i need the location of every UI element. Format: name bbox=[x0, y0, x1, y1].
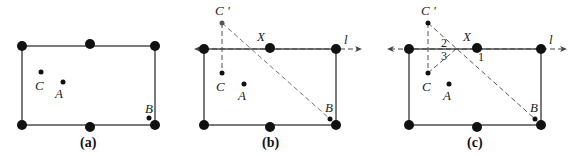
diagram-canvas: C A B (a) l C ' X C A B bbox=[0, 0, 587, 156]
point-c bbox=[426, 71, 431, 76]
point-c bbox=[220, 71, 225, 76]
label-c-prime: C ' bbox=[215, 3, 230, 18]
point-a bbox=[447, 82, 452, 87]
panel-b: l C ' X C A B (b) bbox=[194, 3, 362, 151]
label-c: C bbox=[422, 79, 431, 94]
point-c bbox=[39, 70, 44, 75]
point-c-prime bbox=[426, 21, 431, 26]
angle-2: 2 bbox=[441, 36, 447, 50]
path-cprime-b bbox=[222, 23, 330, 119]
caption-c: (c) bbox=[467, 135, 483, 151]
label-l: l bbox=[344, 32, 348, 47]
point-b bbox=[328, 117, 333, 122]
point-a bbox=[61, 80, 66, 85]
caption-a: (a) bbox=[80, 135, 97, 151]
label-x: X bbox=[462, 29, 472, 44]
angle-3: 3 bbox=[441, 49, 447, 63]
label-l: l bbox=[549, 32, 553, 47]
label-b: B bbox=[145, 101, 153, 116]
label-c: C bbox=[35, 78, 44, 93]
label-x: X bbox=[256, 29, 266, 44]
angle-1: 1 bbox=[478, 50, 484, 64]
point-c-prime bbox=[220, 21, 225, 26]
panel-a: C A B (a) bbox=[17, 39, 160, 151]
caption-b: (b) bbox=[262, 135, 279, 151]
point-b bbox=[533, 117, 538, 122]
panel-c: l C ' X 1 2 3 C A B (c) bbox=[387, 3, 567, 151]
label-c-prime: C ' bbox=[421, 3, 436, 18]
label-c: C bbox=[216, 79, 225, 94]
label-a: A bbox=[54, 86, 63, 101]
point-a bbox=[242, 82, 247, 87]
label-b: B bbox=[325, 100, 333, 115]
label-a: A bbox=[237, 88, 246, 103]
label-a: A bbox=[442, 88, 451, 103]
label-b: B bbox=[530, 100, 538, 115]
point-b bbox=[147, 116, 152, 121]
